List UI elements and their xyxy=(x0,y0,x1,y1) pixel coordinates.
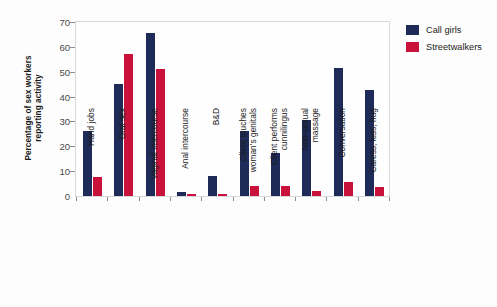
x-axis-label: B&D xyxy=(212,108,222,204)
x-tick-mark xyxy=(107,197,108,201)
x-axis-label: Conversation xyxy=(338,108,348,204)
y-tick-mark xyxy=(70,146,75,147)
x-axis-label-line: Vaginal intercourse xyxy=(150,108,160,204)
x-axis-label: Caress, kiss, hug xyxy=(369,108,379,204)
legend-label: Call girls xyxy=(426,25,461,35)
x-tick-mark xyxy=(170,197,171,201)
x-axis-label: Oral sex xyxy=(118,108,128,204)
y-axis-title-line-1: Percentage of sex workers xyxy=(24,28,34,188)
x-axis-label: Client performscunnilingus xyxy=(270,108,289,204)
x-axis-label-line: Client performs xyxy=(270,108,280,204)
legend-label: Streetwalkers xyxy=(426,42,482,52)
y-tick-mark xyxy=(70,121,75,122)
x-axis-label-line: Oral sex xyxy=(118,108,128,204)
x-axis-label-line: Conversation xyxy=(338,108,348,204)
chart-legend: Call girlsStreetwalkers xyxy=(406,23,494,57)
y-axis-title: Percentage of sex workers reporting acti… xyxy=(24,28,46,188)
y-tick-mark xyxy=(70,22,75,23)
y-tick-mark xyxy=(70,97,75,98)
legend-item[interactable]: Call girls xyxy=(406,23,494,37)
x-tick-mark xyxy=(76,197,77,201)
x-axis-label-line: Client touches xyxy=(239,108,249,204)
x-axis-label-line: massage xyxy=(311,108,321,204)
y-tick-label: 10 xyxy=(44,166,70,177)
y-tick-mark xyxy=(70,72,75,73)
x-axis-label: Vaginal intercourse xyxy=(150,108,160,204)
y-tick-label: 70 xyxy=(44,17,70,28)
x-axis-label-line: Anal intercourse xyxy=(181,108,191,204)
x-tick-mark xyxy=(389,197,390,201)
x-tick-mark xyxy=(326,197,327,201)
y-tick-label: 50 xyxy=(44,66,70,77)
x-axis-label-line: woman's genitals xyxy=(248,108,258,204)
y-tick-label: 20 xyxy=(44,141,70,152)
legend-swatch xyxy=(406,42,419,52)
x-axis-label: Client toucheswoman's genitals xyxy=(239,108,258,204)
x-axis-label-line: Caress, kiss, hug xyxy=(369,108,379,204)
y-axis-title-line-2: reporting activity xyxy=(34,28,44,188)
x-axis-label: Hand jobs xyxy=(87,108,97,204)
y-tick-label: 30 xyxy=(44,116,70,127)
x-tick-mark xyxy=(233,197,234,201)
y-tick-label: 40 xyxy=(44,91,70,102)
x-tick-mark xyxy=(358,197,359,201)
y-tick-label: 0 xyxy=(44,191,70,202)
x-tick-mark xyxy=(139,197,140,201)
y-tick-mark xyxy=(70,171,75,172)
y-tick-mark xyxy=(70,47,75,48)
x-axis-label-line: Hand jobs xyxy=(87,108,97,204)
x-axis-label: Anal intercourse xyxy=(181,108,191,204)
x-axis-label-line: B&D xyxy=(212,108,222,204)
x-tick-mark xyxy=(201,197,202,201)
y-tick-label: 60 xyxy=(44,41,70,52)
legend-swatch xyxy=(406,25,419,35)
x-axis-label: Non-sexualmassage xyxy=(301,108,320,204)
x-tick-mark xyxy=(264,197,265,201)
x-tick-mark xyxy=(295,197,296,201)
x-axis-label-line: cunnilingus xyxy=(279,108,289,204)
legend-item[interactable]: Streetwalkers xyxy=(406,40,494,54)
